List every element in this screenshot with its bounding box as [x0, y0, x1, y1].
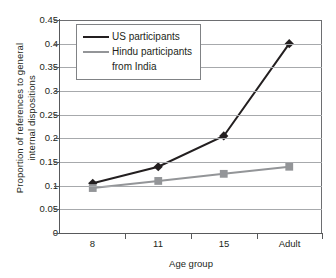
gridline-0-2: [60, 138, 322, 139]
line-chart: Proportion of references to general inte…: [0, 0, 336, 278]
x-tick-label-8: 8: [60, 239, 125, 249]
x-tick-label-adult: Adult: [257, 239, 322, 249]
x-tick-mark-4: [322, 233, 323, 239]
gridline-0-25: [60, 115, 322, 116]
legend-item-hindu: Hindu participants: [83, 45, 192, 60]
gridline-0-3: [60, 91, 322, 92]
legend: US participants Hindu participants from …: [76, 24, 201, 80]
legend-line-hindu: [83, 51, 109, 53]
y-axis-title-line-1: Proportion of references to general: [14, 0, 26, 236]
x-axis-title: Age group: [60, 258, 322, 269]
x-tick-label-11: 11: [125, 239, 191, 249]
gridline-0-15: [60, 162, 322, 163]
gridline-0-05: [60, 209, 322, 210]
legend-label-hindu: Hindu participants: [112, 45, 192, 58]
legend-line-us: [83, 36, 109, 38]
gridline-0-1: [60, 186, 322, 187]
legend-swatch-us: [83, 30, 109, 43]
legend-swatch-hindu: [83, 45, 109, 58]
plot-area: US participants Hindu participants from …: [60, 20, 322, 233]
x-tick-label-15: 15: [191, 239, 257, 249]
legend-item-us: US participants: [83, 30, 192, 45]
legend-label-us: US participants: [112, 30, 180, 43]
legend-label-hindu-line2: from India: [83, 60, 192, 73]
